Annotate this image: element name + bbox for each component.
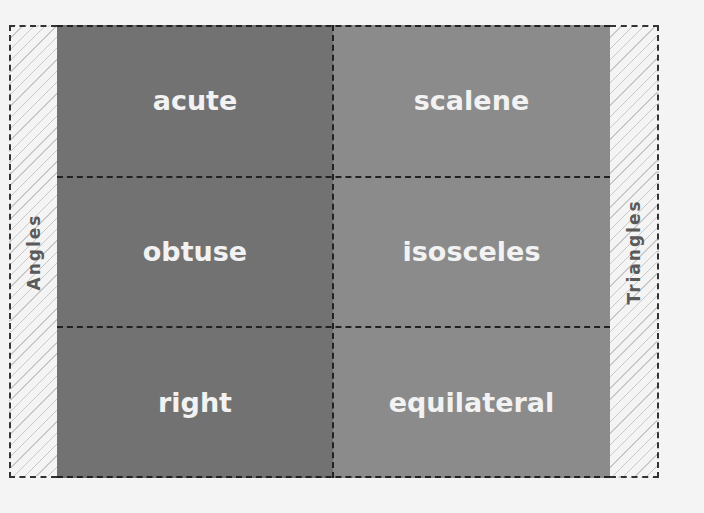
cell-isosceles: isosceles: [333, 176, 610, 326]
column-divider: [332, 25, 334, 478]
cell-equilateral: equilateral: [333, 326, 610, 478]
triangles-side-strip: Triangles: [610, 25, 659, 478]
cell-right: right: [57, 326, 333, 478]
cell-obtuse: obtuse: [57, 176, 333, 326]
angles-label: Angles: [24, 213, 44, 290]
triangles-label: Triangles: [624, 199, 644, 304]
cell-acute: acute: [57, 25, 333, 176]
angles-side-strip: Angles: [9, 25, 57, 478]
cell-scalene: scalene: [333, 25, 610, 176]
